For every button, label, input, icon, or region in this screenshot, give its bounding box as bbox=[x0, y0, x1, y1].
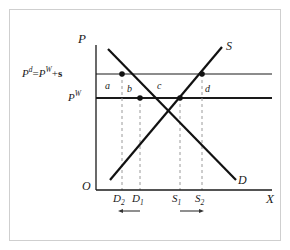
region-label-d: d bbox=[205, 84, 210, 94]
x-tick-base-d2: D bbox=[113, 192, 121, 204]
point-d2 bbox=[119, 71, 125, 77]
demand-curve-label: D bbox=[238, 174, 247, 186]
supply-shift-arrow bbox=[180, 209, 204, 213]
supply-demand-plot bbox=[0, 0, 290, 250]
point-s1 bbox=[177, 95, 183, 101]
pd-price-label-subsidy: s bbox=[58, 67, 62, 79]
x-tick-label-d1: D1 bbox=[132, 193, 144, 207]
y-axis-label: P bbox=[78, 32, 86, 45]
x-tick-label-d2: D2 bbox=[113, 193, 125, 207]
region-label-a: a bbox=[105, 81, 110, 91]
supply-curve-label: S bbox=[226, 40, 232, 52]
demand-shift-arrow bbox=[118, 209, 140, 213]
pw-price-label-p1: P bbox=[68, 91, 75, 103]
x-axis-label: X bbox=[266, 192, 274, 205]
x-tick-label-s1: S1 bbox=[172, 193, 181, 207]
point-d1 bbox=[137, 95, 143, 101]
region-label-c: c bbox=[157, 81, 161, 91]
region-label-b: b bbox=[127, 84, 132, 94]
pd-price-label-p1: P bbox=[22, 67, 29, 79]
x-tick-sub-d2: 2 bbox=[121, 198, 125, 207]
pd-price-label: Pd=PW+s bbox=[22, 66, 62, 79]
x-tick-base-d1: D bbox=[132, 192, 140, 204]
figure-root: P X O Pd=PW+s PW a b c d S D D2 D1 S1 S2 bbox=[0, 0, 290, 250]
point-s2 bbox=[199, 71, 205, 77]
x-tick-sub-s2: 2 bbox=[201, 198, 205, 207]
pw-price-label: PW bbox=[68, 90, 81, 103]
x-tick-label-s2: S2 bbox=[195, 193, 204, 207]
x-tick-sub-s1: 1 bbox=[178, 198, 182, 207]
pw-price-label-sup1: W bbox=[75, 89, 81, 98]
origin-label: O bbox=[82, 180, 91, 192]
x-tick-sub-d1: 1 bbox=[140, 198, 144, 207]
